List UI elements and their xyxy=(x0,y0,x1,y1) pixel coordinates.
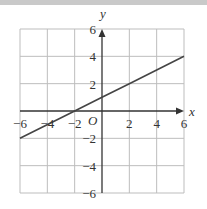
y-tick-label: 4 xyxy=(90,49,97,64)
y-tick-label: −6 xyxy=(82,186,96,201)
y-tick-label: 2 xyxy=(90,77,97,92)
y-tick-label: 6 xyxy=(90,22,97,37)
x-tick-label: 4 xyxy=(153,116,160,131)
y-axis-arrow-icon xyxy=(99,29,106,37)
x-axis-label: x xyxy=(188,104,195,119)
coordinate-plane: −6−4−2246642−2−4−6xyO xyxy=(0,0,207,209)
y-axis-label: y xyxy=(98,6,106,21)
origin-label: O xyxy=(88,113,98,128)
x-axis-arrow-icon xyxy=(176,108,184,115)
x-tick-label: −2 xyxy=(68,116,82,131)
x-tick-label: 6 xyxy=(181,116,188,131)
y-tick-label: −2 xyxy=(82,131,96,146)
x-tick-label: 2 xyxy=(126,116,133,131)
x-tick-label: −6 xyxy=(13,116,27,131)
y-tick-label: −4 xyxy=(82,159,96,174)
x-tick-label: −4 xyxy=(40,116,54,131)
